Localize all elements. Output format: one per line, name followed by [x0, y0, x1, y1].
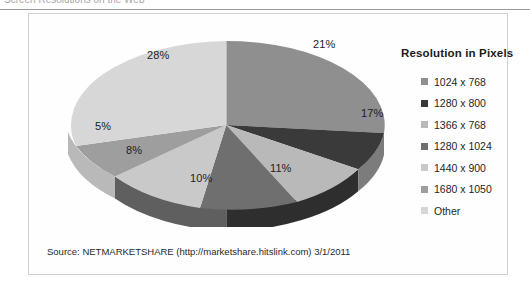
- legend-swatch-icon: [421, 121, 428, 128]
- legend-label: 1280 x 800: [434, 97, 486, 109]
- legend-item-1440x900[interactable]: 1440 x 900: [405, 158, 505, 177]
- source-note: Source: NETMARKETSHARE (http://marketsha…: [47, 246, 350, 257]
- legend-swatch-icon: [421, 78, 428, 85]
- legend-item-1366x768[interactable]: 1366 x 768: [405, 115, 505, 134]
- legend-item-1024x768[interactable]: 1024 x 768: [405, 72, 505, 91]
- legend-swatch-icon: [421, 207, 428, 214]
- legend-title: Resolution in Pixels: [401, 47, 505, 59]
- legend-item-other[interactable]: Other: [405, 201, 505, 220]
- legend-swatch-icon: [421, 186, 428, 193]
- screenshot-root: Screen Resolutions on the Web: [0, 0, 530, 292]
- page-title: Screen Resolutions on the Web: [4, 0, 144, 5]
- slice-label-1680x1050: 5%: [95, 120, 111, 132]
- legend-label: 1366 x 768: [434, 119, 486, 131]
- slice-label-1280x1024: 10%: [190, 172, 212, 184]
- slice-1024x768: [226, 41, 384, 133]
- legend-label: 1680 x 1050: [434, 183, 492, 195]
- legend-swatch-icon: [421, 143, 428, 150]
- legend-item-1680x1050[interactable]: 1680 x 1050: [405, 180, 505, 199]
- slice-label-1366x768: 11%: [270, 162, 292, 174]
- legend-label: 1024 x 768: [434, 76, 486, 88]
- slice-label-1280x800: 17%: [361, 107, 383, 119]
- legend-swatch-icon: [421, 100, 428, 107]
- slice-label-1440x900: 8%: [126, 144, 142, 156]
- legend-item-1280x800[interactable]: 1280 x 800: [405, 94, 505, 113]
- page-heading-strip: Screen Resolutions on the Web: [0, 0, 530, 9]
- legend-label: 1440 x 900: [434, 162, 486, 174]
- slice-label-1024x768: 21%: [313, 38, 335, 50]
- horizontal-rule: [0, 9, 530, 10]
- pie-stage: 21% 17% 11% 10% 8% 5% 28%: [43, 22, 398, 227]
- legend-list: 1024 x 768 1280 x 800 1366 x 768 1280 x …: [405, 72, 505, 220]
- slice-label-other: 28%: [147, 49, 169, 61]
- legend-label: 1280 x 1024: [434, 140, 492, 152]
- pie-chart: 21% 17% 11% 10% 8% 5% 28%: [43, 22, 398, 227]
- legend-label: Other: [434, 205, 460, 217]
- legend-swatch-icon: [421, 164, 428, 171]
- legend-item-1280x1024[interactable]: 1280 x 1024: [405, 137, 505, 156]
- chart-panel: 21% 17% 11% 10% 8% 5% 28% Resolution in …: [28, 13, 508, 275]
- chart-legend: Resolution in Pixels 1024 x 768 1280 x 8…: [405, 47, 505, 223]
